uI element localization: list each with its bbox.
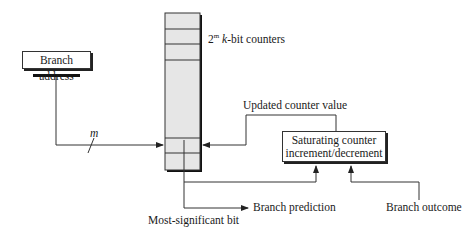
branch-prediction-label: Branch prediction bbox=[253, 202, 336, 214]
saturating-counter-box: Saturating counter increment/decrement bbox=[282, 131, 386, 162]
msb-label: Most-significant bit bbox=[148, 215, 239, 227]
saturating-counter-line1: Saturating counter bbox=[283, 134, 385, 147]
index-path bbox=[33, 74, 163, 153]
outcome-path bbox=[351, 166, 419, 200]
saturating-counter-line2: increment/decrement bbox=[283, 147, 385, 160]
index-bits-label: m bbox=[90, 128, 98, 140]
counter-table-label: 2m k-bit counters bbox=[208, 33, 285, 46]
branch-address-label: Branch address bbox=[39, 54, 74, 82]
branch-outcome-label: Branch outcome bbox=[386, 202, 462, 214]
updated-value-label: Updated counter value bbox=[243, 100, 347, 112]
branch-address-box: Branch address bbox=[22, 51, 91, 69]
